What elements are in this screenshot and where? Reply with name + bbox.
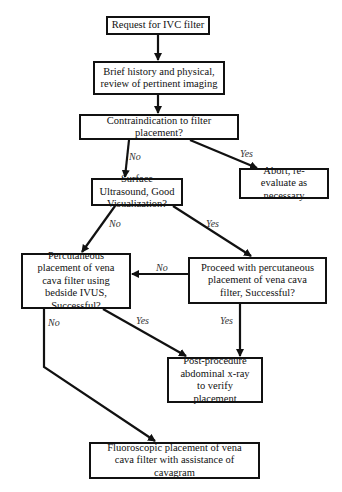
node-ultrasound: Surface Ultrasound, Good Visualization?: [91, 178, 183, 206]
label-ultrasound-yes: Yes: [206, 218, 219, 229]
node-ivus: Percutaneous placement of vena cava filt…: [21, 253, 131, 309]
label-proceed-no: No: [156, 262, 168, 273]
node-history: Brief history and physical, review of pe…: [93, 61, 225, 95]
label-contraindication-no: No: [129, 151, 141, 162]
node-fluoro: Fluoroscopic placement of vena cava filt…: [89, 442, 260, 479]
label-ultrasound-no: No: [109, 218, 121, 229]
arrow-ultrasound-no: [82, 206, 115, 252]
node-xray: Post-procedure abdominal x-ray to verify…: [167, 357, 263, 403]
node-proceed: Proceed with percutaneous placement of v…: [188, 257, 327, 304]
node-abort: Abort, re-evaluate as necessary: [239, 168, 329, 199]
node-request: Request for IVC filter: [106, 16, 210, 35]
label-contraindication-yes: Yes: [240, 148, 253, 159]
label-ivus-no: No: [48, 317, 60, 328]
arrow-ultrasound-yes: [173, 206, 251, 256]
label-proceed-yes: Yes: [220, 315, 233, 326]
node-contraindication: Contraindication to filter placement?: [79, 114, 239, 140]
label-ivus-yes: Yes: [136, 315, 149, 326]
